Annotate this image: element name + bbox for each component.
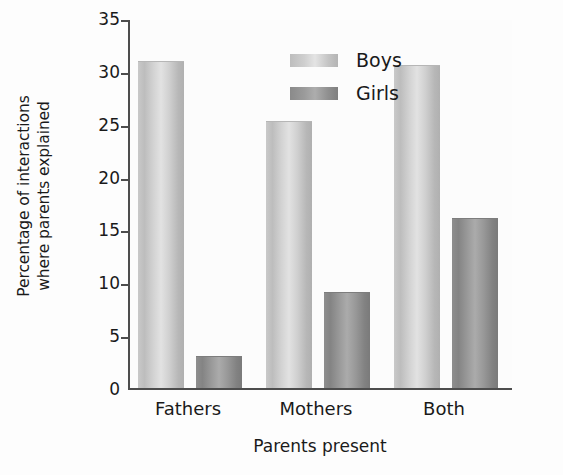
bar-fathers-girls [196, 356, 242, 388]
bar-chart-figure: Percentage of interactions where parents… [0, 0, 563, 475]
bar-both-girls [452, 218, 498, 388]
y-axis-title-container: Percentage of interactions where parents… [0, 0, 72, 400]
y-axis-tick-label: 15 [86, 222, 120, 239]
y-axis-tick-label: 25 [86, 117, 120, 134]
legend-label-boys: Boys [356, 51, 402, 70]
x-axis-tick-label-both: Both [423, 398, 465, 420]
y-axis-tick-labels: 05101520253035 [84, 0, 120, 400]
bar-mothers-girls [324, 292, 370, 388]
y-axis-tick-label: 20 [86, 170, 120, 187]
legend-item-girls: Girls [290, 77, 402, 110]
y-axis-tick-label: 30 [86, 64, 120, 81]
legend-item-boys: Boys [290, 44, 402, 77]
bar-both-boys [394, 65, 440, 388]
y-axis-tick-mark [121, 126, 130, 128]
y-axis-title-line-1: Percentage of interactions [14, 0, 34, 392]
y-axis-tick-mark [121, 20, 130, 22]
y-axis-tick-mark [121, 73, 130, 75]
y-axis-title: Percentage of interactions where parents… [14, 0, 54, 392]
y-axis-tick-mark [121, 337, 130, 339]
legend: Boys Girls [290, 44, 402, 110]
y-axis-tick-label: 35 [86, 11, 120, 28]
bar-fathers-boys [138, 61, 184, 388]
x-axis-tick-labels: FathersMothersBoth [128, 398, 512, 426]
y-axis-title-line-2: where parents explained [34, 0, 54, 392]
y-axis-tick-label: 10 [86, 275, 120, 292]
y-axis-tick-label: 0 [86, 381, 120, 398]
y-axis-tick-mark [121, 284, 130, 286]
y-axis-tick-mark [121, 179, 130, 181]
x-axis-tick-label-mothers: Mothers [280, 398, 353, 420]
y-axis-tick-label: 5 [86, 328, 120, 345]
legend-label-girls: Girls [356, 84, 399, 103]
x-axis-tick-label-fathers: Fathers [155, 398, 221, 420]
legend-swatch-boys-icon [290, 54, 338, 67]
legend-swatch-girls-icon [290, 87, 338, 100]
y-axis-tick-mark [121, 231, 130, 233]
plot-area: Boys Girls [128, 20, 512, 390]
x-axis-title: Parents present [128, 436, 512, 456]
bar-mothers-boys [266, 121, 312, 388]
